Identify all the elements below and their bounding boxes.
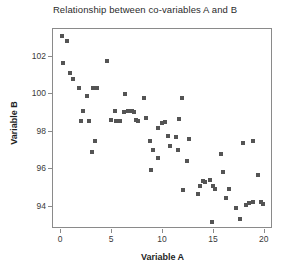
y-tick-mark <box>48 206 52 207</box>
data-point <box>60 34 64 38</box>
data-point <box>251 139 255 143</box>
data-point <box>87 119 91 123</box>
data-point <box>213 187 217 191</box>
data-point <box>185 159 189 163</box>
data-point <box>93 139 97 143</box>
data-point <box>149 168 153 172</box>
data-point <box>168 144 172 148</box>
data-point <box>163 120 167 124</box>
data-point <box>123 92 127 96</box>
plot-area <box>52 28 272 228</box>
data-point <box>156 156 160 160</box>
x-tick-label: 5 <box>99 234 123 244</box>
data-point <box>156 126 160 130</box>
data-point <box>176 148 180 152</box>
data-point <box>198 184 202 188</box>
x-tick-mark <box>111 229 112 233</box>
data-point <box>65 39 69 43</box>
y-tick-mark <box>48 131 52 132</box>
data-point <box>166 134 170 138</box>
x-tick-label: 10 <box>150 234 174 244</box>
data-point <box>61 61 65 65</box>
y-tick-label: 98 <box>18 126 46 136</box>
x-tick-label: 0 <box>48 234 72 244</box>
data-point <box>81 109 85 113</box>
x-tick-mark <box>264 229 265 233</box>
data-point <box>208 178 212 182</box>
data-point <box>234 206 238 210</box>
data-point <box>221 170 225 174</box>
data-point <box>71 77 75 81</box>
data-point <box>203 180 207 184</box>
data-point <box>142 96 146 100</box>
data-point <box>132 110 136 114</box>
data-point <box>261 202 265 206</box>
data-point <box>95 86 99 90</box>
data-point <box>177 117 181 121</box>
data-point <box>224 196 228 200</box>
x-tick-label: 15 <box>201 234 225 244</box>
data-point <box>187 137 191 141</box>
data-point <box>109 118 113 122</box>
x-axis-label: Variable A <box>52 252 273 262</box>
data-point <box>136 119 140 123</box>
data-point <box>118 119 122 123</box>
data-point <box>151 148 155 152</box>
x-tick-label: 20 <box>252 234 276 244</box>
y-tick-label: 94 <box>18 201 46 211</box>
x-tick-mark <box>213 229 214 233</box>
y-tick-mark <box>48 93 52 94</box>
scatter-chart-figure: Relationship between co-variables A and … <box>0 0 290 275</box>
y-tick-mark <box>48 168 52 169</box>
data-point <box>85 94 89 98</box>
chart-title: Relationship between co-variables A and … <box>0 4 290 15</box>
data-point <box>241 141 245 145</box>
y-tick-mark <box>48 56 52 57</box>
data-point <box>68 71 72 75</box>
data-point <box>219 152 223 156</box>
data-point <box>181 188 185 192</box>
data-point <box>144 116 148 120</box>
data-point <box>105 59 109 63</box>
x-tick-mark <box>162 229 163 233</box>
data-point <box>251 200 255 204</box>
data-point <box>196 192 200 196</box>
data-point <box>113 109 117 113</box>
data-point <box>148 139 152 143</box>
data-point <box>180 96 184 100</box>
y-tick-label: 96 <box>18 163 46 173</box>
y-tick-label: 102 <box>18 51 46 61</box>
data-point <box>210 220 214 224</box>
data-point <box>256 173 260 177</box>
x-tick-mark <box>60 229 61 233</box>
data-point <box>90 150 94 154</box>
data-point <box>227 187 231 191</box>
data-point <box>238 217 242 221</box>
data-point <box>174 135 178 139</box>
y-tick-label: 100 <box>18 88 46 98</box>
data-point <box>79 119 83 123</box>
data-point <box>77 86 81 90</box>
